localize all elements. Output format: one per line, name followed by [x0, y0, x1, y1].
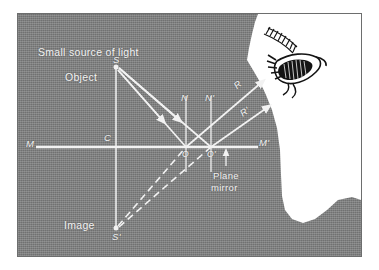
face-silhouette-icon	[247, 14, 361, 223]
diagram-vector-layer	[0, 0, 379, 270]
physics-diagram-reflection-plane-mirror: Small source of light Object S C M M' N …	[0, 0, 379, 270]
origin-2-label: O'	[207, 149, 216, 159]
center-label: C	[104, 132, 111, 143]
image-label: Image	[64, 219, 95, 231]
virtual-ray-2	[119, 147, 211, 227]
mirror-right-label: M'	[259, 137, 269, 148]
source-label: Small source of light	[38, 46, 139, 58]
plane-mirror-label-line2: mirror	[211, 182, 238, 193]
virtual-ray-1	[118, 147, 186, 226]
point-S-image	[114, 226, 119, 231]
object-label: Object	[65, 71, 97, 83]
plane-mirror-label-line1: Plane	[213, 170, 239, 181]
object-point-label: S	[113, 54, 120, 65]
incident-ray-1-arrow	[118, 70, 163, 121]
incident-ray-2-arrow	[119, 68, 179, 120]
mirror-left-label: M	[26, 138, 34, 149]
normal-1-label: N	[181, 92, 188, 103]
origin-1-label: O	[182, 149, 189, 159]
point-S	[114, 65, 119, 70]
image-point-label: S'	[112, 231, 121, 242]
normal-2-label: N'	[205, 92, 214, 103]
